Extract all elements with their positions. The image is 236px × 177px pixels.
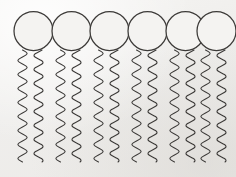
molecule-layer [14, 12, 236, 163]
hydrophobic-tail [56, 50, 65, 162]
hydrophobic-tail [34, 50, 43, 162]
hydrophobic-tail [72, 50, 81, 162]
hydrophilic-head [14, 12, 53, 51]
lipid-molecule-canvas [0, 0, 236, 177]
hydrophilic-head [52, 12, 91, 51]
phospholipid-molecule [52, 12, 91, 163]
hydrophobic-tail [148, 50, 157, 162]
hydrophilic-head [197, 12, 236, 51]
phospholipid-molecule [128, 12, 167, 163]
phospholipid-molecule [90, 12, 129, 163]
hydrophobic-tail [170, 50, 179, 162]
hydrophilic-head [90, 12, 129, 51]
hydrophobic-tail [201, 50, 210, 162]
hydrophobic-tail [132, 50, 141, 162]
hydrophobic-tail [94, 50, 103, 162]
phospholipid-molecule [197, 12, 236, 163]
hydrophobic-tail [110, 50, 119, 162]
hydrophilic-head [128, 12, 167, 51]
phospholipid-molecule [14, 12, 53, 163]
phospholipid-diagram [0, 0, 236, 177]
hydrophobic-tail [186, 50, 195, 162]
hydrophobic-tail [217, 50, 226, 162]
hydrophobic-tail [18, 50, 27, 162]
